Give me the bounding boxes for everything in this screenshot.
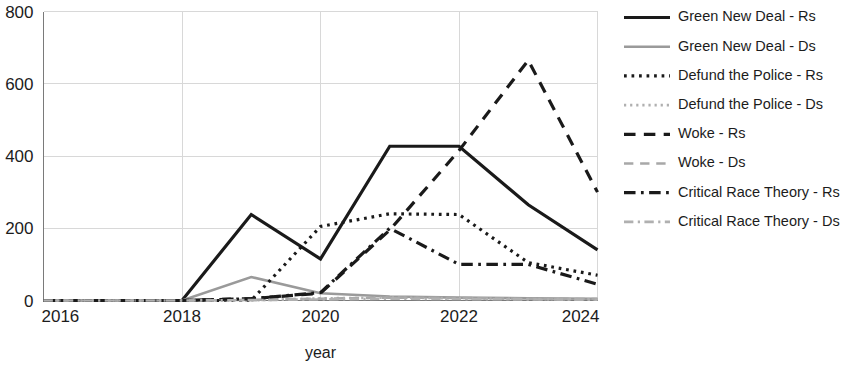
chart-legend: Green New Deal - RsGreen New Deal - DsDe… [624,8,840,228]
x-tick-label: 2020 [302,307,340,326]
x-tick-label: 2018 [163,307,201,326]
x-tick-label: 2016 [42,307,80,326]
x-axis-title: year [305,344,337,361]
legend-label-6[interactable]: Critical Race Theory - Rs [678,184,840,200]
x-tick-label: 2022 [440,307,478,326]
y-tick-label: 0 [24,292,33,311]
y-tick-label: 400 [5,147,33,166]
y-tick-label: 200 [5,219,33,238]
legend-label-1[interactable]: Green New Deal - Ds [678,38,816,54]
legend-label-5[interactable]: Woke - Ds [678,154,745,170]
x-axis-title-label: year [305,344,337,361]
legend-label-3[interactable]: Defund the Police - Ds [678,96,823,112]
legend-label-4[interactable]: Woke - Rs [678,125,745,141]
y-axis-tick-labels: 0200400600800 [5,3,33,311]
line-chart-figure: 0200400600800 20162018202020222024 year … [0,0,857,368]
y-tick-label: 800 [5,3,33,22]
y-tick-label: 600 [5,75,33,94]
legend-label-7[interactable]: Critical Race Theory - Ds [678,213,840,229]
x-tick-label: 2024 [562,307,600,326]
x-axis-tick-labels: 20162018202020222024 [42,307,600,326]
legend-label-2[interactable]: Defund the Police - Rs [678,67,823,83]
chart-canvas: 0200400600800 20162018202020222024 year … [0,0,857,368]
legend-label-0[interactable]: Green New Deal - Rs [678,8,816,24]
